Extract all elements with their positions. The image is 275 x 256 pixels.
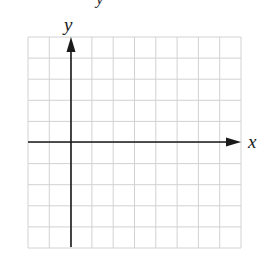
x-axis-label: x <box>247 131 257 152</box>
x-axis-arrow-icon <box>226 138 241 147</box>
y-axis-label: y <box>62 14 73 35</box>
coordinate-plane: y y x <box>0 0 275 256</box>
cropped-text-fragment: y <box>94 0 104 8</box>
y-axis-arrow-icon <box>67 37 76 52</box>
